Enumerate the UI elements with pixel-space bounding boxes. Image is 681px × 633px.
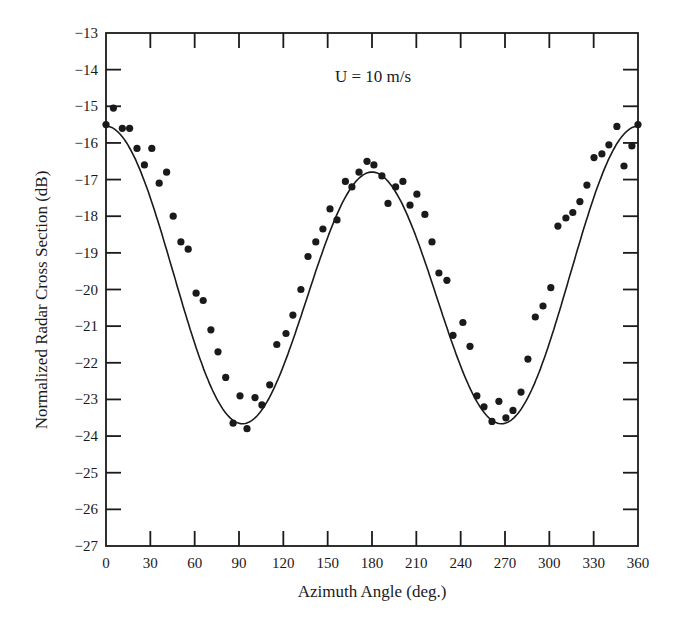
y-tick-label: −16 bbox=[75, 135, 99, 151]
x-tick-label: 180 bbox=[361, 555, 384, 571]
y-tick-label: −21 bbox=[75, 318, 98, 334]
data-point bbox=[370, 161, 377, 168]
y-tick-label: −26 bbox=[75, 501, 99, 517]
x-tick-label: 120 bbox=[272, 555, 295, 571]
data-point bbox=[333, 216, 340, 223]
y-tick-label: −15 bbox=[75, 98, 98, 114]
data-point bbox=[488, 418, 495, 425]
data-points bbox=[102, 105, 641, 433]
data-point bbox=[539, 302, 546, 309]
data-point bbox=[207, 326, 214, 333]
data-point bbox=[185, 246, 192, 253]
data-point bbox=[297, 286, 304, 293]
data-point bbox=[547, 284, 554, 291]
data-point bbox=[569, 209, 576, 216]
x-tick-label: 150 bbox=[316, 555, 339, 571]
data-point bbox=[126, 125, 133, 132]
y-tick-label: −25 bbox=[75, 465, 98, 481]
data-point bbox=[620, 162, 627, 169]
x-tick-label: 90 bbox=[232, 555, 247, 571]
data-point bbox=[562, 214, 569, 221]
data-point bbox=[273, 341, 280, 348]
radar-cross-section-chart: 0306090120150180210240270300330360 −13−1… bbox=[0, 0, 681, 633]
data-point bbox=[156, 180, 163, 187]
data-point bbox=[222, 374, 229, 381]
data-point bbox=[342, 178, 349, 185]
data-point bbox=[266, 381, 273, 388]
data-point bbox=[326, 205, 333, 212]
data-point bbox=[282, 330, 289, 337]
data-point bbox=[613, 123, 620, 130]
data-point bbox=[583, 182, 590, 189]
fit-line bbox=[106, 126, 638, 423]
data-point bbox=[428, 238, 435, 245]
y-tick-label: −22 bbox=[75, 355, 98, 371]
data-point bbox=[214, 348, 221, 355]
data-point bbox=[509, 407, 516, 414]
data-point bbox=[480, 403, 487, 410]
data-point bbox=[517, 389, 524, 396]
data-point bbox=[141, 161, 148, 168]
x-tick-label: 0 bbox=[102, 555, 110, 571]
data-point bbox=[319, 225, 326, 232]
data-point bbox=[258, 401, 265, 408]
y-tick-label: −27 bbox=[75, 538, 99, 554]
data-point bbox=[312, 238, 319, 245]
data-point bbox=[399, 178, 406, 185]
y-tick-label: −18 bbox=[75, 208, 98, 224]
fit-curve bbox=[106, 126, 638, 423]
x-tick-label: 330 bbox=[582, 555, 605, 571]
data-point bbox=[163, 169, 170, 176]
data-point bbox=[236, 392, 243, 399]
y-tick-label: −23 bbox=[75, 391, 98, 407]
data-point bbox=[532, 313, 539, 320]
data-point bbox=[243, 425, 250, 432]
data-point bbox=[554, 223, 561, 230]
data-point bbox=[449, 332, 456, 339]
data-point bbox=[148, 145, 155, 152]
data-point bbox=[193, 290, 200, 297]
y-tick-label: −13 bbox=[75, 25, 98, 41]
data-point bbox=[378, 172, 385, 179]
data-point bbox=[576, 198, 583, 205]
data-point bbox=[348, 183, 355, 190]
data-point bbox=[605, 141, 612, 148]
data-point bbox=[355, 169, 362, 176]
x-tick-label: 300 bbox=[538, 555, 561, 571]
data-point bbox=[466, 343, 473, 350]
data-point bbox=[200, 297, 207, 304]
x-tick-label: 210 bbox=[405, 555, 428, 571]
data-point bbox=[421, 211, 428, 218]
data-point bbox=[170, 213, 177, 220]
x-tick-label: 360 bbox=[627, 555, 650, 571]
y-tick-label: −17 bbox=[75, 172, 99, 188]
x-axis-title: Azimuth Angle (deg.) bbox=[298, 582, 447, 601]
data-point bbox=[363, 158, 370, 165]
data-point bbox=[590, 154, 597, 161]
data-point bbox=[495, 398, 502, 405]
data-point bbox=[304, 253, 311, 260]
data-point bbox=[473, 392, 480, 399]
y-tick-label: −14 bbox=[75, 62, 99, 78]
x-tick-label: 270 bbox=[494, 555, 517, 571]
y-tick-label: −24 bbox=[75, 428, 99, 444]
data-point bbox=[230, 420, 237, 427]
data-point bbox=[392, 183, 399, 190]
x-axis-ticks: 0306090120150180210240270300330360 bbox=[102, 33, 649, 571]
data-point bbox=[384, 200, 391, 207]
x-tick-label: 240 bbox=[449, 555, 472, 571]
data-point bbox=[413, 191, 420, 198]
data-point bbox=[406, 202, 413, 209]
x-tick-label: 60 bbox=[187, 555, 202, 571]
plot-frame bbox=[106, 33, 638, 546]
data-point bbox=[435, 269, 442, 276]
data-point bbox=[502, 414, 509, 421]
wind-speed-annotation: U = 10 m/s bbox=[335, 67, 411, 86]
data-point bbox=[524, 356, 531, 363]
data-point bbox=[598, 150, 605, 157]
y-tick-label: −19 bbox=[75, 245, 98, 261]
data-point bbox=[177, 238, 184, 245]
data-point bbox=[119, 125, 126, 132]
y-axis-title: Normalized Radar Cross Section (dB) bbox=[32, 171, 51, 430]
x-tick-label: 30 bbox=[143, 555, 158, 571]
